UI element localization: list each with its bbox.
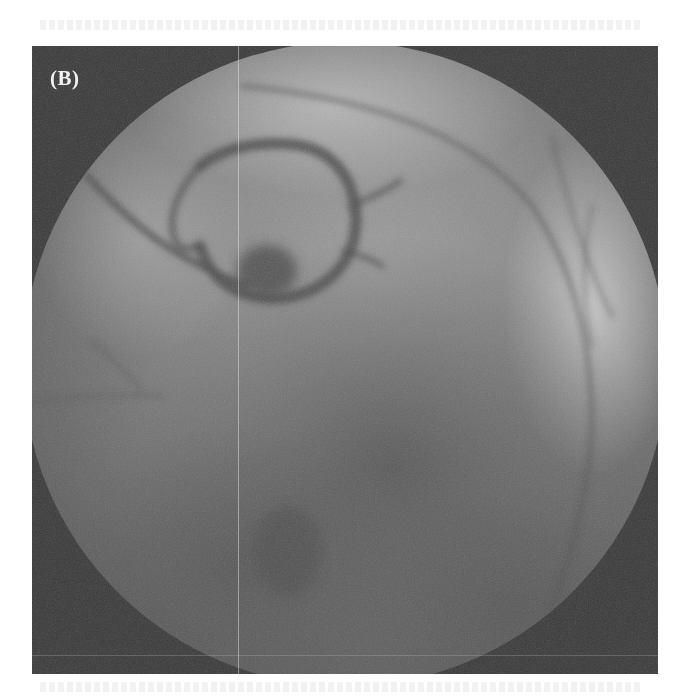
panel-label: (B) [50,68,80,89]
scan-artifact-line [238,46,239,674]
angiogram-image: (B) [32,46,658,674]
fluoroscopy-field [32,46,658,674]
bleed-through-text-bottom [40,682,640,692]
bleed-through-text-top [40,20,640,30]
scan-artifact-line-horizontal [32,655,658,656]
